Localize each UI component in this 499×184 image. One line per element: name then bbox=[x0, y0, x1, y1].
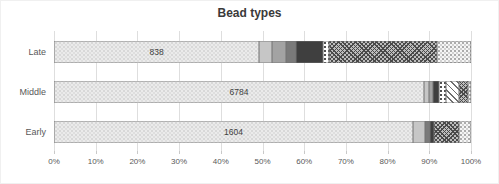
segment-dark-crosshatch bbox=[329, 41, 437, 63]
x-tick-label: 0% bbox=[48, 157, 60, 166]
x-tick-label: 100% bbox=[461, 157, 481, 166]
x-tick-label: 70% bbox=[338, 157, 354, 166]
segment-dark-gray bbox=[286, 41, 296, 63]
category-label-early: Early bbox=[1, 127, 46, 137]
segment-light-speckle: 838 bbox=[54, 41, 259, 63]
segment-light-speckle: 1604 bbox=[54, 121, 413, 143]
segment-dark-crosshatch bbox=[459, 81, 468, 103]
x-tick-label: 60% bbox=[296, 157, 312, 166]
axis-tick bbox=[221, 151, 222, 154]
axis-tick bbox=[179, 151, 180, 154]
axis-tick bbox=[96, 151, 97, 154]
bead-types-chart: Bead types 83867841604 LateMiddleEarly 0… bbox=[0, 0, 499, 184]
axis-tick bbox=[54, 151, 55, 154]
x-tick-label: 40% bbox=[213, 157, 229, 166]
bar-row-middle: 6784 bbox=[54, 81, 471, 103]
bar-value-label: 1604 bbox=[224, 127, 243, 137]
axis-tick bbox=[304, 151, 305, 154]
bar-row-early: 1604 bbox=[54, 121, 471, 143]
plot-area: 83867841604 bbox=[54, 31, 471, 151]
segment-end-speckle bbox=[468, 81, 471, 103]
segment-light-speckle: 6784 bbox=[54, 81, 424, 103]
x-tick-label: 80% bbox=[380, 157, 396, 166]
chart-title: Bead types bbox=[1, 6, 498, 20]
segment-white-dots bbox=[439, 81, 446, 103]
category-label-middle: Middle bbox=[1, 87, 46, 97]
segment-dark-crosshatch bbox=[434, 121, 459, 143]
bar-value-label: 838 bbox=[149, 47, 163, 57]
segment-black bbox=[296, 41, 323, 63]
axis-tick bbox=[263, 151, 264, 154]
x-tick-label: 20% bbox=[129, 157, 145, 166]
segment-end-speckle bbox=[459, 121, 471, 143]
bar-value-label: 6784 bbox=[229, 87, 248, 97]
segment-diagonal-hatch bbox=[446, 81, 459, 103]
x-tick-label: 90% bbox=[421, 157, 437, 166]
segment-end-speckle bbox=[437, 41, 471, 63]
axis-tick bbox=[429, 151, 430, 154]
axis-tick bbox=[388, 151, 389, 154]
bar-row-late: 838 bbox=[54, 41, 471, 63]
category-label-late: Late bbox=[1, 47, 46, 57]
segment-medium-gray bbox=[272, 41, 286, 63]
axis-tick bbox=[346, 151, 347, 154]
x-tick-label: 30% bbox=[171, 157, 187, 166]
segment-light-gray bbox=[259, 41, 272, 63]
axis-tick bbox=[137, 151, 138, 154]
x-tick-label: 50% bbox=[254, 157, 270, 166]
axis-tick bbox=[471, 151, 472, 154]
segment-light-gray bbox=[413, 121, 425, 143]
gridline bbox=[471, 31, 472, 151]
x-tick-label: 10% bbox=[88, 157, 104, 166]
